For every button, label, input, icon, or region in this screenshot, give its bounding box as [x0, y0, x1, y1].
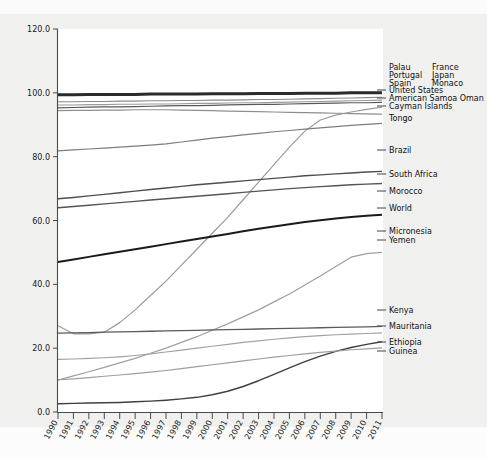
legend-label-south-africa: South Africa	[389, 170, 438, 179]
y-tick-layer: 120.0100.080.060.040.020.00.0	[27, 25, 58, 417]
legend-label-ethiopia: Ethiopia	[389, 338, 422, 347]
legend-label-micronesia: Micronesia	[389, 227, 432, 236]
x-tick-label: 2008	[320, 419, 338, 441]
x-tick-layer: 1990199119921993199419951996199719981999…	[42, 413, 384, 441]
x-tick-label: 1997	[150, 419, 168, 441]
x-tick-label: 1998	[166, 419, 184, 441]
legend-label-morocco: Morocco	[389, 187, 423, 196]
x-tick-label: 2002	[227, 419, 245, 441]
legend-label-kenya: Kenya	[389, 306, 414, 315]
x-tick-label: 1991	[58, 419, 76, 441]
x-tick-label: 1993	[89, 419, 107, 441]
x-tick-label: 1990	[42, 419, 60, 441]
y-tick-label: 40.0	[32, 280, 50, 289]
x-tick-label: 2000	[197, 419, 215, 441]
legend-label-mauritania: Mauritania	[389, 322, 432, 331]
x-tick-label: 2004	[258, 419, 276, 441]
x-tick-label: 2005	[274, 419, 292, 441]
x-tick-label: 1994	[104, 419, 122, 441]
legend-label-tongo: Tongo	[388, 114, 413, 123]
y-tick-label: 120.0	[27, 25, 50, 34]
legend-label-cayman-islands: Cayman Islands	[389, 102, 453, 111]
y-tick-label: 20.0	[32, 344, 50, 353]
x-tick-label: 1995	[119, 419, 137, 441]
y-tick-label: 60.0	[32, 217, 50, 226]
series-line-palau-portugal-spain-france-japan-monaco	[58, 93, 382, 95]
x-tick-label: 1992	[73, 419, 91, 441]
x-tick-label: 2007	[305, 419, 323, 441]
legend-label-world: World	[389, 204, 412, 213]
y-tick-label: 100.0	[27, 89, 50, 98]
legend-label-guinea: Guinea	[389, 347, 417, 356]
line-chart: 120.0100.080.060.040.020.00.0 1990199119…	[0, 0, 487, 459]
chart-legend: PalauPortugalSpainFranceJapanMonacoUnite…	[377, 63, 484, 356]
x-tick-label: 2006	[289, 419, 307, 441]
plot-area-background	[57, 29, 383, 413]
y-tick-label: 80.0	[32, 153, 50, 162]
legend-label-brazil: Brazil	[389, 146, 411, 155]
x-tick-label: 2011	[366, 419, 384, 441]
y-tick-label: 0.0	[37, 408, 50, 417]
x-tick-label: 1999	[181, 419, 199, 441]
chart-page: 120.0100.080.060.040.020.00.0 1990199119…	[0, 0, 487, 459]
x-tick-label: 1996	[135, 419, 153, 441]
x-tick-label: 2001	[212, 419, 230, 441]
x-tick-label: 2003	[243, 419, 261, 441]
x-tick-label: 2009	[335, 419, 353, 441]
x-tick-label: 2010	[351, 419, 369, 441]
legend-label-yemen: Yemen	[388, 236, 416, 245]
